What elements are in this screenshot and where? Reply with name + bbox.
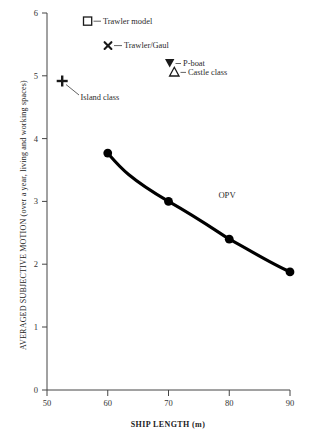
y-ticklabel-6: 6 [34,8,38,18]
label-island-class: Island class [81,93,120,102]
data-point-69 [164,197,173,206]
label-castle-class: Castle class [188,68,227,77]
x-axis: 50 60 70 80 90 [43,390,295,408]
up-triangle-marker [170,67,179,76]
y-ticklabel-2: 2 [34,259,38,269]
y-ticklabel-5: 5 [34,71,38,81]
x-ticklabel-90: 90 [286,398,295,408]
open-square-marker [84,17,92,25]
x-ticklabel-60: 60 [104,398,113,408]
point-island-class: Island class [57,76,120,103]
point-p-boat: P-boat [165,59,206,68]
annotation-opv: OPV [218,190,236,200]
point-trawler-model: Trawler model [84,17,153,26]
y-axis-title: AVERAGED SUBJECTIVE MOTION (over a year,… [19,80,28,350]
label-p-boat: P-boat [183,59,206,68]
y-ticklabel-0: 0 [34,385,38,395]
x-ticklabel-50: 50 [43,398,52,408]
label-trawler-model: Trawler model [103,17,153,26]
data-point-79 [225,235,234,244]
x-axis-title: SHIP LENGTH (m) [131,420,205,429]
leader-line-island-class [66,85,79,96]
data-point-90 [286,268,295,277]
chart-canvas: 6 5 4 3 2 1 0 50 60 70 80 90 SHIP LENGTH… [0,0,309,442]
data-point-60 [103,149,112,158]
point-trawler-gaul: Trawler/Gaul [105,41,170,50]
x-cross-marker [105,42,112,49]
y-ticklabel-3: 3 [34,196,38,206]
opv-curve [108,153,290,272]
point-castle-class: Castle class [170,67,228,77]
y-axis: 6 5 4 3 2 1 0 [34,8,47,395]
y-ticklabel-1: 1 [34,322,38,332]
x-ticklabel-70: 70 [164,398,173,408]
down-triangle-marker [165,59,174,68]
label-trawler-gaul: Trawler/Gaul [124,41,169,50]
series-opv [103,149,294,277]
x-ticklabel-80: 80 [225,398,234,408]
y-ticklabel-4: 4 [34,134,39,144]
